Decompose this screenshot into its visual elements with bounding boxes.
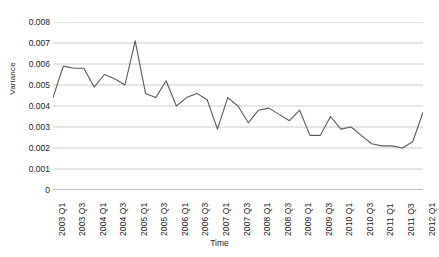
x-axis-tick-label: 2012 Q1 (427, 203, 437, 236)
x-axis-tick-label: 2006 Q1 (180, 203, 190, 236)
x-axis-tick-label: 2004 Q3 (118, 203, 128, 236)
y-axis-tick-label: 0.006 (29, 60, 50, 68)
x-axis-tick-label: 2011 Q3 (406, 203, 416, 236)
x-axis-tick-label: 2011 Q1 (385, 203, 395, 236)
y-axis-tick-label: 0.007 (29, 39, 50, 47)
plot-svg (53, 22, 423, 190)
x-axis-tick-label: 2010 Q3 (365, 203, 375, 236)
y-axis-tick-label: 0.008 (29, 18, 50, 26)
x-axis-tick-label: 2005 Q3 (159, 203, 169, 236)
plot-area (53, 22, 423, 190)
x-axis-tick-label: 2010 Q1 (344, 203, 354, 236)
x-axis-title: Time (0, 238, 439, 248)
x-axis-tick-label: 2007 Q3 (242, 203, 252, 236)
x-axis-tick-label: 2005 Q1 (139, 203, 149, 236)
x-axis-tick-label: 2003 Q3 (77, 203, 87, 236)
y-axis-tick-label: 0.004 (29, 102, 50, 110)
y-axis-tick-label: 0.002 (29, 144, 50, 152)
x-axis-tick-label: 2009 Q1 (303, 203, 313, 236)
y-axis-tick-label: 0.001 (29, 165, 50, 173)
y-axis-tick-labels: 00.0010.0020.0030.0040.0050.0060.0070.00… (0, 0, 50, 200)
x-axis-tick-label: 2008 Q3 (283, 203, 293, 236)
variance-time-line-chart: Variance 00.0010.0020.0030.0040.0050.006… (0, 0, 439, 257)
x-axis-tick-labels: 2003 Q12003 Q32004 Q12004 Q32005 Q12005 … (0, 192, 439, 240)
y-axis-tick-label: 0.005 (29, 81, 50, 89)
x-axis-tick-label: 2008 Q1 (262, 203, 272, 236)
x-axis-tick-label: 2009 Q3 (324, 203, 334, 236)
y-axis-tick-label: 0.003 (29, 123, 50, 131)
variance-series-line (53, 40, 423, 147)
x-axis-tick-label: 2004 Q1 (98, 203, 108, 236)
x-axis-tick-label: 2003 Q1 (57, 203, 67, 236)
x-axis-tick-label: 2007 Q1 (221, 203, 231, 236)
x-axis-tick-label: 2006 Q3 (200, 203, 210, 236)
